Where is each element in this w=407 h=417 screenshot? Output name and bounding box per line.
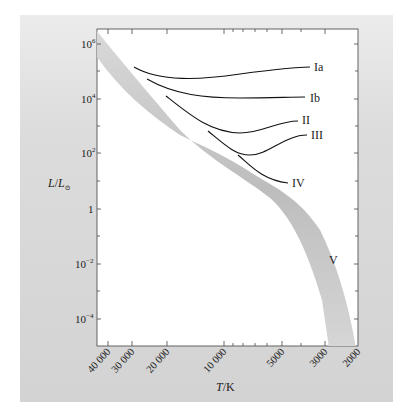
svg-text:10−2: 10−2: [75, 257, 94, 270]
svg-text:102: 102: [81, 146, 96, 159]
hr-diagram: Ia Ib II III IV V 106 104: [0, 0, 407, 417]
plot-area: [97, 29, 358, 346]
svg-text:2000: 2000: [340, 346, 362, 369]
svg-text:3000: 3000: [307, 346, 329, 369]
label-V: V: [329, 253, 338, 267]
svg-text:106: 106: [81, 37, 96, 50]
svg-text:1: 1: [88, 203, 94, 215]
x-axis-label: T/K: [216, 380, 235, 394]
label-Ib: Ib: [310, 91, 320, 105]
y-axis-label: L/L⊙: [47, 176, 71, 192]
svg-text:20 000: 20 000: [144, 346, 171, 375]
svg-text:40 000: 40 000: [85, 346, 112, 375]
svg-text:10 000: 10 000: [201, 346, 228, 375]
svg-text:10−4: 10−4: [75, 312, 94, 325]
y-tick-labels: 106 104 102 1 10−2 10−4: [75, 37, 96, 325]
label-II: II: [302, 113, 310, 127]
svg-text:30 000: 30 000: [109, 346, 136, 375]
label-III: III: [311, 128, 323, 142]
svg-text:104: 104: [81, 92, 96, 105]
label-Ia: Ia: [314, 60, 324, 74]
x-tick-labels: 40 000 30 000 20 000 10 000 5000 3000 20…: [85, 346, 362, 375]
label-IV: IV: [292, 176, 305, 190]
svg-text:5000: 5000: [264, 346, 286, 369]
